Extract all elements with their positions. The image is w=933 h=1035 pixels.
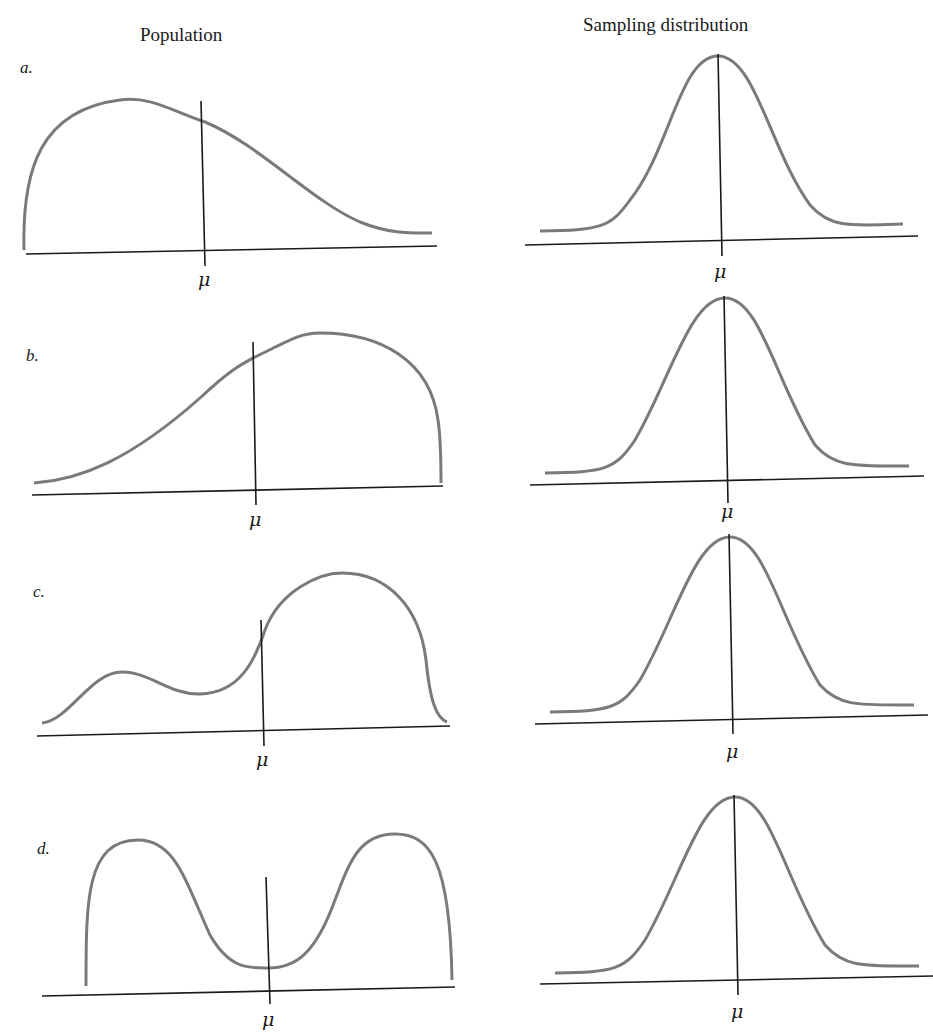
- sampling-curve-b: [530, 296, 924, 503]
- distribution-curves: [0, 0, 933, 1035]
- mean-label-population-b: μ: [249, 508, 261, 530]
- population-curve-c: [37, 573, 450, 746]
- mean-label-population-c: μ: [256, 748, 268, 770]
- sampling-curve-c: [535, 534, 928, 734]
- mean-label-population-a: μ: [198, 268, 210, 290]
- population-curve-a: [24, 99, 437, 266]
- mean-label-sampling-d: μ: [731, 1000, 743, 1022]
- sampling-curve-d: [540, 795, 933, 995]
- population-curve-d: [42, 834, 455, 1004]
- mean-label-population-d: μ: [262, 1008, 274, 1030]
- mean-label-sampling-c: μ: [726, 740, 738, 762]
- mean-label-sampling-a: μ: [714, 260, 726, 282]
- population-curve-b: [32, 333, 443, 505]
- sampling-curve-a: [525, 54, 918, 256]
- mean-label-sampling-b: μ: [721, 500, 733, 522]
